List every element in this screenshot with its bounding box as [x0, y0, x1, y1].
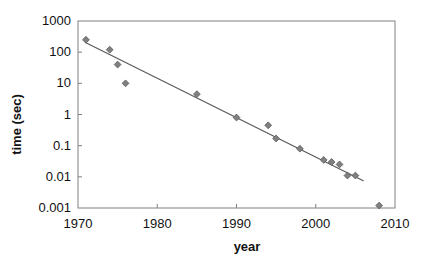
- data-point-marker: [114, 61, 121, 68]
- y-axis-title: time (sec): [10, 77, 23, 173]
- y-tick-label: 10: [57, 76, 71, 89]
- data-point-marker: [122, 80, 129, 87]
- x-tick-label: 1980: [127, 217, 187, 230]
- y-tick-label: 0.1: [53, 139, 71, 152]
- data-point-marker: [106, 46, 113, 53]
- y-tick-label: 1: [64, 108, 71, 121]
- y-tick-label: 100: [49, 45, 71, 58]
- x-tick-label: 2000: [286, 217, 346, 230]
- data-point-marker: [344, 172, 351, 179]
- y-tick-label: 0.01: [46, 170, 71, 183]
- x-tick-label: 2010: [365, 217, 425, 230]
- data-point-marker: [265, 122, 272, 129]
- x-tick-label: 1990: [207, 217, 267, 230]
- data-point-marker: [336, 161, 343, 168]
- chart-graphics-layer: [78, 21, 395, 209]
- data-point-marker: [233, 114, 240, 121]
- y-tick-label: 1000: [42, 14, 71, 27]
- x-axis-title-text: year: [174, 240, 261, 253]
- data-point-marker: [83, 36, 90, 43]
- y-tick-label: 0.001: [38, 201, 71, 214]
- x-axis-title: year: [0, 240, 434, 253]
- x-tick-label: 1970: [48, 217, 108, 230]
- data-point-marker: [297, 145, 304, 152]
- chart-figure: time (sec) year 0.0010.010.1110100100019…: [0, 0, 434, 270]
